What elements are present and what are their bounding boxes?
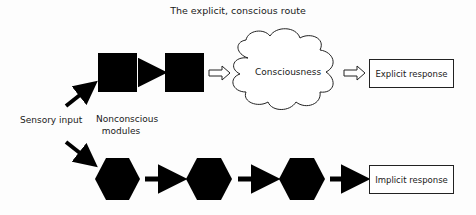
hexagon-module-1 [95,158,140,200]
hollow-arrow-icon [209,66,230,80]
implicit-response-label: Implicit response [375,175,448,185]
sensory-arrow-down-icon [66,142,90,161]
modules-label-line1: Nonconscious [96,113,146,125]
hexagon-module-3 [279,158,325,200]
diagram-canvas: The explicit, conscious route Sensory in… [0,0,476,215]
implicit-response-box: Implicit response [369,165,454,194]
sensory-arrow-up-icon [66,87,90,106]
nonconscious-module-square-1 [98,53,137,92]
modules-label-line2: modules [96,125,146,137]
diagram-title: The explicit, conscious route [0,5,476,16]
sensory-input-label: Sensory input [20,115,82,125]
hollow-arrow-icon [344,66,365,80]
explicit-response-box: Explicit response [369,59,454,88]
consciousness-label: Consciousness [255,67,319,77]
nonconscious-modules-label: Nonconscious modules [96,113,146,137]
hexagon-module-2 [186,158,232,200]
nonconscious-module-square-2 [165,53,204,92]
explicit-response-label: Explicit response [375,69,447,79]
